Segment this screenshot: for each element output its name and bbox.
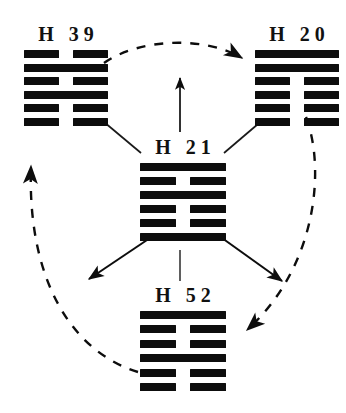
hex-seg — [255, 91, 290, 99]
hex-line — [24, 104, 108, 112]
hex-seg — [24, 118, 59, 126]
hex-seg — [73, 77, 108, 85]
hex-seg — [24, 64, 108, 72]
hex-seg — [140, 340, 176, 348]
hex-seg — [255, 50, 339, 58]
hex-seg — [190, 325, 226, 333]
hex-seg — [255, 118, 290, 126]
hex-seg — [190, 369, 226, 377]
hex-seg — [140, 325, 176, 333]
hex-line — [140, 191, 226, 199]
hex-seg — [190, 177, 226, 185]
hex-line — [140, 163, 226, 171]
hex-seg — [73, 118, 108, 126]
hex-seg — [190, 219, 226, 227]
hex-line — [140, 233, 226, 241]
hex-seg — [73, 50, 108, 58]
hex-line — [140, 177, 226, 185]
arrow-down-right — [222, 238, 282, 281]
hex-seg — [255, 77, 290, 85]
hexagram-h39[interactable]: H 39 — [24, 24, 108, 126]
hex-seg — [140, 383, 176, 391]
hex-seg — [304, 91, 339, 99]
hex-line — [24, 77, 108, 85]
hex-line — [140, 325, 226, 333]
hexagram-h52[interactable]: H 52 — [140, 285, 226, 391]
hexagram-h20-label: H 20 — [255, 24, 339, 44]
hex-seg — [140, 369, 176, 377]
hex-line — [24, 91, 108, 99]
hexagram-h52-lines — [140, 311, 226, 391]
hex-seg — [24, 104, 59, 112]
hexagram-h20[interactable]: H 20 — [255, 24, 339, 126]
hex-seg — [140, 354, 226, 362]
hex-seg — [140, 233, 226, 241]
hex-line — [255, 104, 339, 112]
hex-seg — [255, 104, 290, 112]
hex-seg — [140, 177, 176, 185]
hex-line — [140, 311, 226, 319]
hexagram-h52-label: H 52 — [140, 285, 226, 305]
hex-line — [255, 64, 339, 72]
hex-seg — [140, 191, 226, 199]
hex-line — [24, 64, 108, 72]
hexagram-h39-lines — [24, 50, 108, 126]
arrow-down-left — [89, 238, 150, 279]
hex-line — [24, 50, 108, 58]
hex-seg — [140, 205, 176, 213]
hex-line — [255, 118, 339, 126]
hex-line — [140, 354, 226, 362]
hexagram-h21-label: H 21 — [140, 137, 226, 157]
hexagram-diagram: H 39 — [0, 0, 346, 413]
hex-line — [140, 369, 226, 377]
hex-line — [255, 91, 339, 99]
hexagram-h21-lines — [140, 163, 226, 241]
hexagram-h39-label: H 39 — [24, 24, 108, 44]
hex-seg — [190, 340, 226, 348]
hex-line — [140, 340, 226, 348]
hex-line — [255, 77, 339, 85]
hex-seg — [24, 77, 59, 85]
hex-seg — [24, 91, 108, 99]
hexagram-h21[interactable]: H 21 — [140, 137, 226, 241]
hex-seg — [304, 104, 339, 112]
arc-h52-to-h39 — [31, 166, 138, 372]
hex-line — [255, 50, 339, 58]
hexagram-h20-lines — [255, 50, 339, 126]
arc-h39-to-h20 — [104, 43, 242, 63]
hex-line — [140, 205, 226, 213]
hex-seg — [140, 311, 226, 319]
hex-seg — [140, 219, 176, 227]
hex-seg — [255, 64, 339, 72]
hex-line — [24, 118, 108, 126]
line-h39-center — [104, 122, 141, 153]
line-h20-center — [224, 124, 258, 153]
hex-seg — [304, 118, 339, 126]
hex-seg — [190, 383, 226, 391]
hex-seg — [190, 205, 226, 213]
hex-seg — [140, 163, 226, 171]
hex-line — [140, 383, 226, 391]
hex-seg — [24, 50, 59, 58]
hex-seg — [304, 77, 339, 85]
hex-line — [140, 219, 226, 227]
hex-seg — [73, 104, 108, 112]
arc-h20-to-h52 — [247, 117, 315, 330]
